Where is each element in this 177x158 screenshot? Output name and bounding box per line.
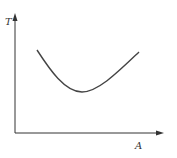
chart-figure: T A [0,0,177,158]
y-axis-arrow-icon [13,13,18,21]
x-axis-label: A [135,141,142,151]
chart-canvas [0,0,177,158]
y-axis-label: T [5,17,12,27]
x-axis-arrow-icon [156,131,164,136]
data-curve [37,50,139,92]
